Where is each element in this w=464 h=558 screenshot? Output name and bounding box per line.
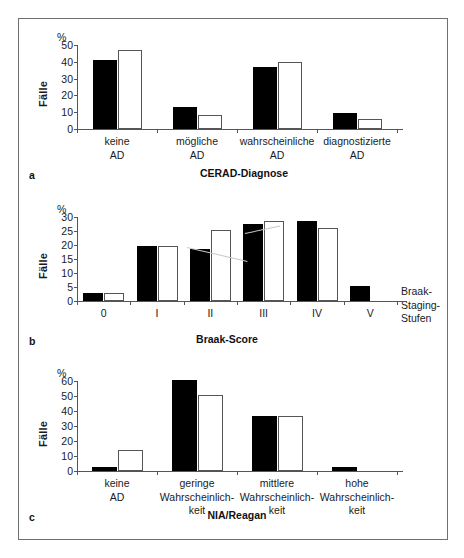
y-tick-mark — [74, 95, 78, 96]
bar-black-2 — [253, 67, 277, 129]
figure-root: Fälle % a CERAD-Diagnose 01020304050kein… — [0, 0, 464, 558]
y-tick-mark — [74, 245, 78, 246]
x-tick-mark — [157, 471, 158, 475]
panel-a-y-axis-label: Fälle — [37, 81, 49, 107]
x-tick-mark — [77, 301, 78, 305]
bar-black-1 — [173, 107, 197, 129]
bar-black-3 — [333, 113, 357, 129]
x-axis-line — [77, 471, 403, 472]
x-category-label: wahrscheinliche AD — [237, 135, 317, 162]
bar-white-0 — [104, 293, 124, 301]
bar-black-1 — [172, 380, 197, 472]
x-category-label: hohe Wahrscheinlich- keit — [317, 477, 397, 518]
y-tick-mark — [74, 112, 78, 113]
x-tick-mark — [317, 471, 318, 475]
x-tick-mark — [397, 471, 398, 475]
panel-b-plot-area: 0510152025300IIIIIIIVV — [77, 217, 397, 301]
bar-black-0 — [92, 467, 117, 471]
x-tick-mark — [290, 301, 291, 305]
bar-white-3 — [358, 119, 382, 129]
y-tick-mark — [74, 441, 78, 442]
x-tick-mark — [317, 129, 318, 133]
bar-black-2 — [190, 249, 210, 301]
y-tick-mark — [74, 273, 78, 274]
bar-white-0 — [118, 50, 142, 129]
y-tick-mark — [74, 231, 78, 232]
panel-c-letter: c — [29, 511, 35, 523]
bar-white-1 — [158, 246, 178, 301]
x-axis-line — [77, 129, 403, 130]
x-tick-mark — [157, 129, 158, 133]
y-tick-mark — [74, 426, 78, 427]
panel-b-x-axis-title: Braak-Score — [77, 333, 377, 345]
bar-white-2 — [278, 416, 303, 472]
x-tick-mark — [344, 301, 345, 305]
x-tick-mark — [237, 471, 238, 475]
y-axis-line — [77, 45, 78, 130]
y-tick-mark — [74, 259, 78, 260]
y-tick-mark — [74, 381, 78, 382]
y-tick-mark — [74, 62, 78, 63]
x-category-label: III — [237, 307, 290, 321]
bar-black-3 — [332, 467, 357, 471]
y-tick-mark — [74, 287, 78, 288]
x-category-label: mittlere Wahrscheinlich- keit — [237, 477, 317, 518]
panel-b-y-axis-label: Fälle — [37, 253, 49, 279]
bar-black-2 — [252, 416, 277, 472]
y-tick-mark — [74, 217, 78, 218]
bar-white-0 — [118, 450, 143, 471]
x-category-label: keine AD — [77, 477, 157, 504]
x-tick-mark — [77, 129, 78, 133]
x-category-label: mögliche AD — [157, 135, 237, 162]
bar-white-3 — [264, 221, 284, 301]
bar-black-5 — [350, 286, 370, 301]
x-tick-mark — [237, 129, 238, 133]
x-tick-mark — [184, 301, 185, 305]
panel-b: Fälle % b Braak-Score Braak- Staging- St… — [19, 191, 449, 363]
x-category-label: diagnostizierte AD — [317, 135, 397, 162]
y-tick-mark — [74, 456, 78, 457]
bar-black-0 — [83, 293, 103, 301]
panel-a-plot-area: 01020304050keine ADmögliche ADwahrschein… — [77, 45, 397, 129]
y-axis-line — [77, 217, 78, 302]
bar-white-2 — [211, 230, 231, 301]
figure-frame: Fälle % a CERAD-Diagnose 01020304050kein… — [18, 18, 448, 540]
bar-white-2 — [278, 62, 302, 129]
x-tick-mark — [237, 301, 238, 305]
x-category-label: keine AD — [77, 135, 157, 162]
y-tick-mark — [74, 396, 78, 397]
bar-white-1 — [198, 115, 222, 129]
panel-c-y-axis-label: Fälle — [37, 421, 49, 447]
x-category-label: V — [344, 307, 397, 321]
x-tick-mark — [77, 471, 78, 475]
x-category-label: I — [130, 307, 183, 321]
x-axis-line — [77, 301, 407, 302]
x-tick-mark — [397, 301, 398, 305]
x-category-label: geringe Wahrscheinlich- keit — [157, 477, 237, 518]
bar-black-1 — [137, 246, 157, 301]
panel-a-x-axis-title: CERAD-Diagnose — [84, 167, 404, 179]
bar-black-3 — [243, 224, 263, 301]
y-tick-mark — [74, 411, 78, 412]
x-category-label: 0 — [77, 307, 130, 321]
y-tick-mark — [74, 79, 78, 80]
panel-b-side-label: Braak- Staging- Stufen — [401, 285, 440, 326]
panel-a: Fälle % a CERAD-Diagnose 01020304050kein… — [19, 19, 449, 199]
x-tick-mark — [397, 129, 398, 133]
panel-a-letter: a — [29, 169, 35, 181]
panel-c-plot-area: 0102030405060keine ADgeringe Wahrscheinl… — [77, 381, 397, 471]
panel-c: Fälle % c NIA/Reagan 0102030405060keine … — [19, 355, 449, 541]
bar-white-1 — [198, 395, 223, 472]
bar-black-4 — [297, 221, 317, 301]
x-category-label: IV — [290, 307, 343, 321]
bar-white-4 — [318, 228, 338, 301]
x-tick-mark — [130, 301, 131, 305]
y-axis-line — [77, 381, 78, 472]
bar-black-0 — [93, 60, 117, 129]
x-category-label: II — [184, 307, 237, 321]
y-tick-mark — [74, 45, 78, 46]
panel-b-letter: b — [29, 335, 35, 347]
